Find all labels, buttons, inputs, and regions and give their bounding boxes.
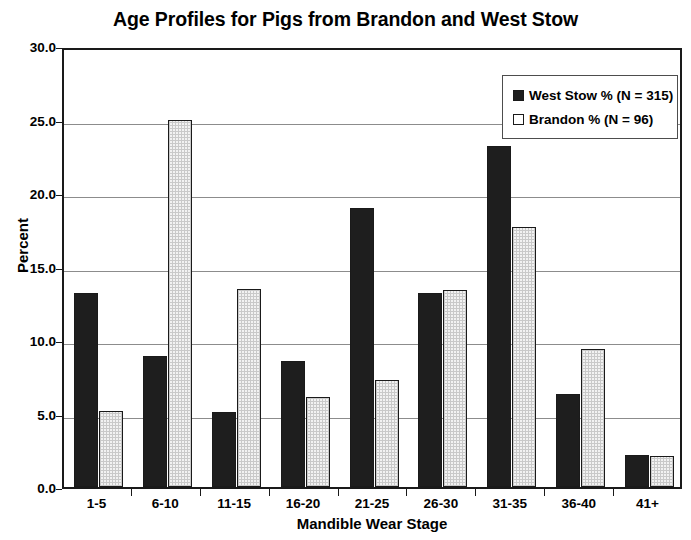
bar-west-stow-21-25 <box>350 208 374 487</box>
x-tick-label: 31-35 <box>475 496 544 511</box>
y-tick-mark <box>56 489 62 490</box>
bar-west-stow-36-40 <box>556 394 580 487</box>
y-tick-label: 10.0 <box>4 335 56 349</box>
bar-west-stow-1-5 <box>74 293 98 487</box>
bar-brandon-11-15 <box>237 289 261 487</box>
bar-brandon-6-10 <box>168 120 192 488</box>
legend-item-brandon: Brandon % (N = 96) <box>513 107 667 131</box>
bar-west-stow-16-20 <box>281 361 305 487</box>
x-tick-mark <box>200 489 201 496</box>
bar-brandon-31-35 <box>512 227 536 487</box>
x-tick-mark <box>544 489 545 496</box>
bar-brandon-16-20 <box>306 397 330 487</box>
x-tick-label: 21-25 <box>338 496 407 511</box>
x-tick-mark <box>338 489 339 496</box>
bar-west-stow-6-10 <box>143 356 167 487</box>
x-tick-label: 16-20 <box>269 496 338 511</box>
x-tick-label: 6-10 <box>131 496 200 511</box>
x-tick-mark <box>131 489 132 496</box>
y-tick-label: 30.0 <box>4 41 56 55</box>
y-tick-label: 20.0 <box>4 188 56 202</box>
gridline <box>64 197 680 198</box>
bar-brandon-26-30 <box>443 290 467 487</box>
x-tick-label: 1-5 <box>62 496 131 511</box>
legend-swatch-icon-brandon <box>513 114 524 125</box>
y-tick-label: 15.0 <box>4 262 56 276</box>
y-tick-label: 25.0 <box>4 115 56 129</box>
x-tick-mark <box>269 489 270 496</box>
x-tick-mark <box>613 489 614 496</box>
x-tick-mark <box>475 489 476 496</box>
bar-brandon-21-25 <box>375 380 399 487</box>
x-tick-label: 26-30 <box>406 496 475 511</box>
y-tick-label: 5.0 <box>4 409 56 423</box>
bar-brandon-1-5 <box>99 411 123 487</box>
chart-title: Age Profiles for Pigs from Brandon and W… <box>0 8 691 31</box>
legend-item-west-stow: West Stow % (N = 315) <box>513 83 667 107</box>
legend-swatch-icon-west-stow <box>513 90 524 101</box>
bar-west-stow-26-30 <box>418 293 442 487</box>
x-tick-mark <box>406 489 407 496</box>
x-tick-label: 41+ <box>613 496 682 511</box>
bar-brandon-36-40 <box>581 349 605 487</box>
bar-brandon-41+ <box>650 456 674 487</box>
legend-label-brandon: Brandon % (N = 96) <box>529 112 653 127</box>
bar-west-stow-41+ <box>625 455 649 487</box>
chart-figure: Age Profiles for Pigs from Brandon and W… <box>0 0 691 540</box>
chart-legend: West Stow % (N = 315) Brandon % (N = 96) <box>502 75 678 139</box>
x-tick-label: 11-15 <box>200 496 269 511</box>
legend-label-west-stow: West Stow % (N = 315) <box>529 88 673 103</box>
bar-west-stow-31-35 <box>487 146 511 487</box>
bar-west-stow-11-15 <box>212 412 236 487</box>
y-axis-ticks: 0.05.010.015.020.025.030.0 <box>0 48 56 489</box>
x-tick-label: 36-40 <box>544 496 613 511</box>
x-axis-label: Mandible Wear Stage <box>62 515 682 532</box>
y-tick-label: 0.0 <box>4 482 56 496</box>
